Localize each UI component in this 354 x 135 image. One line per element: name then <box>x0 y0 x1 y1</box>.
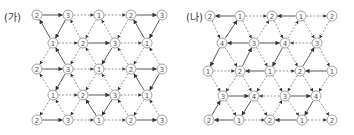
directed-edge <box>212 21 220 38</box>
node-label: 2 <box>35 66 39 74</box>
node-label: 1 <box>330 68 334 76</box>
directed-edge <box>210 48 219 66</box>
node-label: 2 <box>35 12 39 20</box>
node-label: 3 <box>315 40 319 48</box>
directed-edge <box>288 48 298 66</box>
directed-edge <box>134 48 144 65</box>
directed-edge <box>319 76 329 92</box>
directed-edge <box>150 20 160 38</box>
directed-edge <box>150 100 159 116</box>
directed-edge <box>212 101 220 115</box>
diagram-na: 21212434312121343421212 <box>203 11 337 125</box>
directed-edge <box>102 20 113 38</box>
directed-edge <box>40 20 51 38</box>
node-label: 1 <box>268 68 272 76</box>
directed-edge <box>288 100 299 115</box>
directed-edge <box>150 48 160 64</box>
directed-edge <box>320 48 330 66</box>
node-label: 1 <box>206 68 210 76</box>
directed-edge <box>56 100 65 116</box>
node-label: 1 <box>97 117 101 125</box>
directed-edge <box>211 76 220 92</box>
node-label: 1 <box>145 92 149 100</box>
node-label: 2 <box>330 13 334 21</box>
directed-edge <box>86 74 96 91</box>
directed-edge <box>150 74 160 90</box>
node-label: 1 <box>238 13 242 21</box>
directed-edge <box>102 74 112 91</box>
node-label: 2 <box>35 117 39 125</box>
directed-edge <box>86 48 96 65</box>
directed-edge <box>226 76 237 92</box>
directed-edge <box>40 100 50 116</box>
node-label: 1 <box>51 40 55 48</box>
node-label: 2 <box>268 117 272 125</box>
directed-edge <box>304 21 314 39</box>
diagram-ga: 23123123123123123123123 <box>32 10 167 125</box>
node-label: 4 <box>220 40 225 48</box>
directed-edge <box>102 48 112 65</box>
directed-edge <box>118 20 129 38</box>
directed-edge <box>134 100 144 116</box>
node-label: 4 <box>314 93 319 101</box>
directed-edge <box>257 21 269 39</box>
node-label: 3 <box>221 93 225 101</box>
node-label: 4 <box>252 93 257 101</box>
directed-edge <box>273 76 282 92</box>
directed-edge <box>71 48 81 64</box>
directed-edge <box>303 76 313 92</box>
directed-edge <box>118 74 128 91</box>
node-label: 3 <box>160 66 164 74</box>
node-label: 1 <box>145 40 149 48</box>
node-label: 2 <box>81 92 85 100</box>
directed-edge <box>102 100 112 116</box>
directed-edge <box>288 76 297 92</box>
directed-edge <box>225 48 237 67</box>
directed-edge <box>257 101 267 116</box>
diagram-label-ga: (가) <box>4 9 21 24</box>
directed-edge <box>86 20 97 38</box>
node-label: 2 <box>238 68 242 76</box>
directed-edge <box>71 100 80 116</box>
directed-edge <box>56 20 66 38</box>
node-label: 3 <box>160 12 164 20</box>
directed-edge <box>257 48 268 66</box>
directed-edge <box>56 48 66 64</box>
node-label: 2 <box>270 13 274 21</box>
directed-edge <box>40 48 50 65</box>
directed-edge <box>243 76 252 91</box>
directed-edge <box>319 101 329 116</box>
node-label: 1 <box>299 13 303 21</box>
directed-edge <box>134 74 144 91</box>
directed-edge <box>257 76 267 92</box>
directed-edge <box>288 21 298 39</box>
node-label: 2 <box>298 68 302 76</box>
node-label: 3 <box>113 92 117 100</box>
node-label: 2 <box>81 40 85 48</box>
directed-edge <box>273 101 282 116</box>
diagram-canvas: 23123123123123123123123 2121243431212134… <box>0 0 354 135</box>
directed-edge <box>225 21 237 39</box>
node-label: 1 <box>97 12 101 20</box>
node-label: 3 <box>283 93 287 101</box>
node-label: 3 <box>66 117 70 125</box>
directed-edge <box>242 48 251 66</box>
node-label: 1 <box>51 92 55 100</box>
node-label: 3 <box>66 12 70 20</box>
node-label: 2 <box>208 13 212 21</box>
node-label: 1 <box>97 66 101 74</box>
directed-edge <box>71 74 81 90</box>
diagram-label-na: (나) <box>186 9 203 24</box>
directed-edge <box>320 21 330 38</box>
node-label: 2 <box>129 117 133 125</box>
node-label: 2 <box>330 117 334 125</box>
directed-edge <box>305 101 313 115</box>
directed-edge <box>118 100 128 116</box>
node-label: 3 <box>160 117 164 125</box>
node-label: 2 <box>207 117 211 125</box>
node-label: 3 <box>66 66 70 74</box>
directed-edge <box>226 101 236 116</box>
node-label: 4 <box>283 40 288 48</box>
node-label: 2 <box>129 12 133 20</box>
directed-edge <box>243 21 252 38</box>
